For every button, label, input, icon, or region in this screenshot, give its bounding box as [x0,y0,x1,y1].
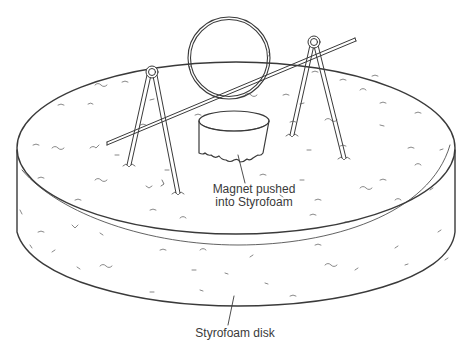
magnet [199,111,269,162]
right-support-eye [308,36,320,48]
magnet-label-line2: into Styrofoam [196,196,312,209]
magnet-label: Magnet pushed into Styrofoam [196,183,312,209]
styrofoam-magnet-diagram [0,0,467,352]
left-support-eye [146,66,158,78]
disk-label: Styrofoam disk [180,327,290,340]
